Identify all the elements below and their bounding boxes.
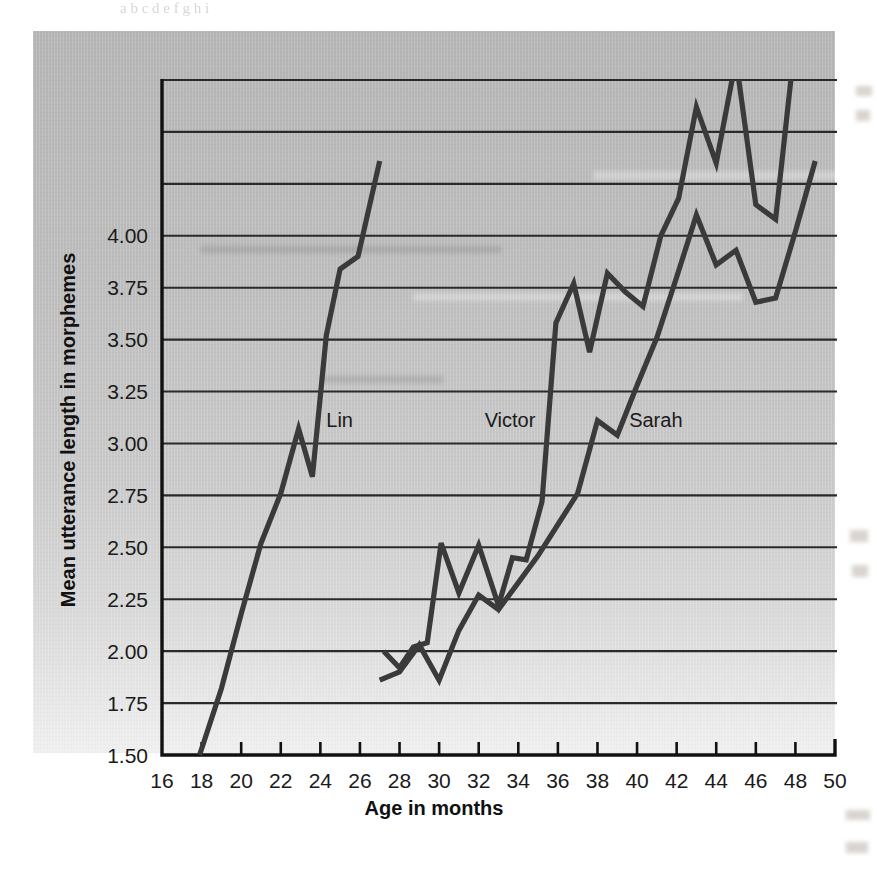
series-label-sarah: Sarah (629, 409, 682, 431)
x-tick-label: 28 (388, 769, 411, 792)
x-tick-label: 18 (190, 769, 213, 792)
x-tick-label: 20 (229, 769, 252, 792)
y-tick-label: 2.50 (107, 536, 148, 559)
y-tick-label: 2.75 (107, 484, 148, 507)
figure-root: a b c d e f g h i 1.501.752.002.252.502.… (0, 0, 877, 870)
x-tick-label: 42 (665, 769, 688, 792)
series-inline-labels: LinVictorSarah (326, 409, 682, 431)
y-tick-label: 3.00 (107, 432, 148, 455)
y-tick-label: 2.00 (107, 640, 148, 663)
series-label-lin: Lin (326, 409, 353, 431)
y-tick-label: 3.50 (107, 328, 148, 351)
x-axis-title: Age in months (365, 797, 504, 819)
x-tick-label: 38 (586, 769, 609, 792)
x-tick-label: 46 (744, 769, 767, 792)
x-tick-label: 50 (823, 769, 846, 792)
y-tick-label: 2.25 (107, 588, 148, 611)
x-tick-label: 32 (467, 769, 490, 792)
x-tick-label: 16 (150, 769, 173, 792)
y-tick-label: 4.00 (107, 224, 148, 247)
data-series-group (200, 39, 816, 756)
series-line-lin (200, 161, 380, 755)
x-tick-label: 48 (784, 769, 807, 792)
x-axis-ticks (202, 742, 796, 755)
chart-svg: 1.501.752.002.252.502.753.003.253.503.75… (0, 0, 877, 870)
series-label-victor: Victor (485, 409, 536, 431)
y-tick-label: 3.75 (107, 276, 148, 299)
x-axis-tick-labels: 161820222426283032343638404244464850 (150, 769, 846, 792)
y-axis-title: Mean utterance length in morphemes (57, 253, 79, 608)
x-tick-label: 24 (309, 769, 333, 792)
x-tick-label: 40 (625, 769, 648, 792)
y-tick-label: 1.75 (107, 692, 148, 715)
x-tick-label: 26 (348, 769, 371, 792)
x-tick-label: 22 (269, 769, 292, 792)
series-line-sarah (380, 161, 816, 680)
x-tick-label: 36 (546, 769, 569, 792)
y-tick-label: 3.25 (107, 380, 148, 403)
x-tick-label: 34 (507, 769, 531, 792)
x-tick-label: 44 (705, 769, 729, 792)
x-tick-label: 30 (427, 769, 450, 792)
y-axis-tick-labels: 1.501.752.002.252.502.753.003.253.503.75… (107, 224, 148, 766)
y-tick-label: 1.50 (107, 744, 148, 767)
